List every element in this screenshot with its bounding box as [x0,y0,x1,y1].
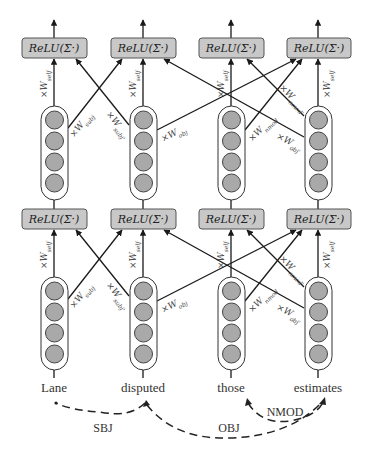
weight-label-subj: ×Wsubj [68,281,97,313]
weight-label-nmod-rev: ×Wnmod' [275,82,310,117]
relu-label: ReLU(Σ·) [117,42,169,55]
weight-label-self: ×Wself [39,240,53,269]
layer-1-edges [54,230,318,308]
output-arrows [54,20,318,38]
neuron-pill-disputed-lower [130,277,157,370]
dep-label-obj: OBJ [218,421,240,435]
word-those: those [217,380,245,395]
weight-label-self: ×Wself [322,240,336,269]
relu-label: ReLU(Σ·) [205,213,257,226]
relu-row-bottom: ReLU(Σ·) ReLU(Σ·) ReLU(Σ·) ReLU(Σ·) [22,209,351,229]
weight-label-subj: ×Wsubj [68,110,97,142]
relu-row-top: ReLU(Σ·) ReLU(Σ·) ReLU(Σ·) ReLU(Σ·) [22,38,351,58]
neuron-pill-estimates-upper [305,106,332,200]
relu-box-estimates-top: ReLU(Σ·) [287,38,351,58]
weight-label-self: ×Wself [39,69,53,98]
weight-label-subj-rev: ×Wsubj' [101,280,131,313]
dep-arc-sbj [56,403,145,414]
weight-label-self: ×Wself [128,240,142,269]
layer-2-edges [54,59,318,137]
neuron-pill-estimates-lower [305,277,332,370]
relu-label: ReLU(Σ·) [117,213,169,226]
relu-box-those-top: ReLU(Σ·) [199,38,264,58]
neuron-pill-disputed-upper [130,106,157,200]
dependency-arcs: SBJ OBJ NMOD [54,397,326,438]
relu-box-lane-bottom: ReLU(Σ·) [22,209,87,229]
dep-label-sbj: SBJ [93,421,113,435]
weight-label-nmod: ×Wnmod [246,283,279,316]
word-lane: Lane [41,380,67,395]
relu-label: ReLU(Σ·) [205,42,257,55]
relu-label: ReLU(Σ·) [293,42,345,55]
relu-box-estimates-bottom: ReLU(Σ·) [287,209,351,229]
arc-head-those [245,398,252,406]
weight-label-nmod-rev: ×Wnmod' [275,253,310,288]
weight-label-nmod: ×Wnmod [246,112,279,145]
gcn-diagram: ReLU(Σ·) ReLU(Σ·) ReLU(Σ·) ReLU(Σ·) ReLU… [0,0,371,458]
weight-labels-layer-1: ×Wself ×Wself ×Wself ×Wself ×Wsubj ×Wsub… [39,240,336,327]
word-disputed: disputed [121,380,166,395]
weight-label-self: ×Wself [322,69,336,98]
arc-head-estimates [319,397,326,405]
weight-label-self: ×Wself [128,69,142,98]
neuron-pill-those-lower [218,277,245,370]
neuron-pill-those-upper [218,106,245,200]
weight-label-subj-rev: ×Wsubj' [101,109,131,142]
relu-box-disputed-top: ReLU(Σ·) [111,38,176,58]
weight-labels-layer-2: ×Wself ×Wself ×Wself ×Wself ×Wsubj ×Wsub… [39,69,336,156]
relu-box-disputed-bottom: ReLU(Σ·) [111,209,176,229]
dep-label-nmod: NMOD [267,405,304,419]
relu-label: ReLU(Σ·) [293,213,345,226]
relu-label: ReLU(Σ·) [28,42,80,55]
word-estimates: estimates [294,380,342,395]
relu-box-those-bottom: ReLU(Σ·) [199,209,264,229]
neuron-pill-lane-upper [41,106,68,200]
neuron-pill-lane-lower [41,277,68,370]
sentence-words: Lane disputed those estimates [41,380,342,395]
relu-box-lane-top: ReLU(Σ·) [22,38,87,58]
relu-label: ReLU(Σ·) [28,213,80,226]
